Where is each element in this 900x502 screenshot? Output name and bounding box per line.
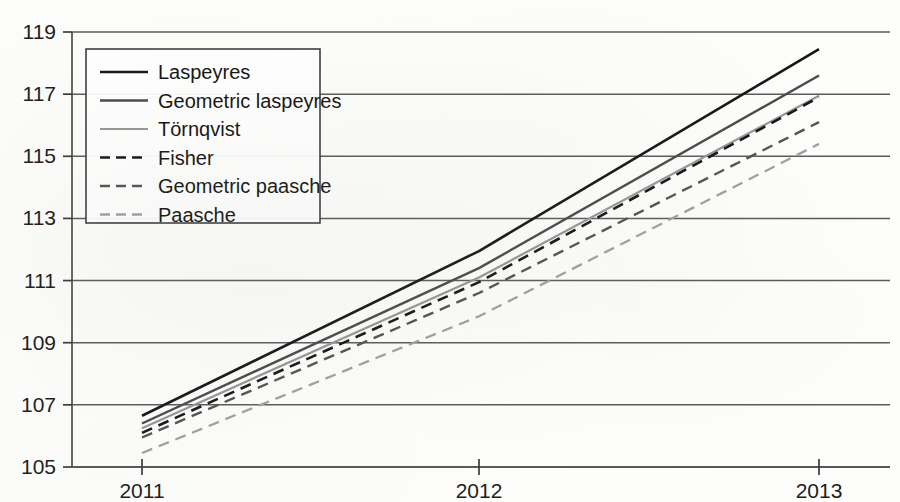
legend-label-geometric-laspeyres: Geometric laspeyres [158,90,341,112]
x-tick-label: 2012 [456,479,503,502]
legend-label-paasche: Paasche [158,204,236,226]
y-axis-ticks: 119117115113111109107105 [21,20,72,478]
y-tick-label: 119 [23,20,56,43]
x-tick-label: 2011 [119,479,164,502]
legend-label-fisher: Fisher [158,147,214,169]
y-tick-label: 115 [23,144,56,167]
x-axis-ticks: 201120122013 [119,459,842,502]
price-index-line-chart: 119117115113111109107105 201120122013 La… [0,0,900,502]
y-tick-label: 105 [21,455,56,478]
y-tick-label: 107 [21,393,56,416]
y-tick-label: 109 [21,331,56,354]
legend-label-törnqvist: Törnqvist [158,118,241,140]
y-tick-label: 113 [23,206,56,229]
legend-label-geometric-paasche: Geometric paasche [158,175,331,197]
y-tick-label: 111 [24,269,56,292]
x-tick-label: 2013 [796,479,843,502]
chart-page: 119117115113111109107105 201120122013 La… [0,0,900,502]
legend-label-laspeyres: Laspeyres [158,61,250,83]
chart-legend: LaspeyresGeometric laspeyresTörnqvistFis… [86,49,341,226]
y-tick-label: 117 [23,82,56,105]
